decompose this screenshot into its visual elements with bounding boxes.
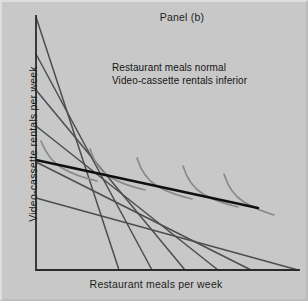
chart-annotation: Restaurant meals normal Video-cassette r… (112, 61, 247, 87)
x-axis-label: Restaurant meals per week (36, 278, 276, 290)
annotation-line-normal-good: Restaurant meals normal (112, 61, 247, 74)
figure-panel-b: Panel (b) Restaurant meals normal Video-… (0, 0, 308, 301)
panel-title: Panel (b) (2, 11, 306, 23)
annotation-line-inferior-good: Video-cassette rentals inferior (112, 74, 247, 87)
budget-line-1 (36, 17, 119, 270)
axes-group (36, 16, 299, 270)
y-axis-label: Video-cassette rentals per week (27, 32, 39, 256)
indifference-curve-5 (224, 174, 274, 215)
income-consumption-curve (36, 160, 258, 208)
chart-canvas (2, 2, 308, 301)
budget-lines-group (36, 17, 298, 270)
